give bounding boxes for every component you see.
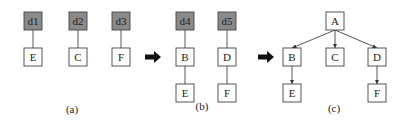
node-a_d1: d1 <box>24 12 42 30</box>
node-label: D <box>373 51 381 63</box>
node-c_A: A <box>326 12 344 30</box>
node-label: d5 <box>222 15 234 27</box>
transition-arrow-icon <box>145 51 161 63</box>
node-c_D: D <box>368 48 386 66</box>
node-c_F: F <box>368 84 386 102</box>
node-label: C <box>331 51 338 63</box>
node-a_C: C <box>69 48 87 66</box>
edge-c_A-c_B <box>292 30 335 48</box>
node-label: F <box>118 51 124 63</box>
node-a_E: E <box>24 48 42 66</box>
node-label: d3 <box>116 15 128 27</box>
node-label: C <box>74 51 81 63</box>
node-label: A <box>331 15 339 27</box>
node-label: B <box>288 51 295 63</box>
node-b_D: D <box>218 48 236 66</box>
node-c_B: B <box>283 48 301 66</box>
node-label: E <box>30 51 37 63</box>
transition-arrow-icon <box>258 51 274 63</box>
node-label: F <box>224 87 230 99</box>
node-label: E <box>182 87 189 99</box>
node-b_B: B <box>176 48 194 66</box>
node-label: d4 <box>180 15 192 27</box>
node-label: d1 <box>28 15 39 27</box>
node-label: d2 <box>73 15 84 27</box>
node-a_d3: d3 <box>112 12 130 30</box>
node-label: F <box>374 87 380 99</box>
node-b_E: E <box>176 84 194 102</box>
node-c_C: C <box>326 48 344 66</box>
panel-label-2: (c) <box>328 102 341 115</box>
transition-arrows <box>145 51 274 63</box>
node-a_F: F <box>112 48 130 66</box>
node-b_d5: d5 <box>218 12 236 30</box>
node-label: E <box>289 87 296 99</box>
nodes-layer: d1Ed2Cd3Fd4BEd5DFABCDEF <box>24 12 386 102</box>
panel-label-1: (b) <box>196 100 209 113</box>
node-c_E: E <box>283 84 301 102</box>
node-label: B <box>181 51 188 63</box>
diagram-canvas: d1Ed2Cd3Fd4BEd5DFABCDEF (a)(b)(c) <box>0 0 407 127</box>
node-b_d4: d4 <box>176 12 194 30</box>
node-a_d2: d2 <box>69 12 87 30</box>
edge-c_A-c_D <box>335 30 377 48</box>
node-label: D <box>223 51 231 63</box>
node-b_F: F <box>218 84 236 102</box>
panel-label-0: (a) <box>66 103 79 116</box>
